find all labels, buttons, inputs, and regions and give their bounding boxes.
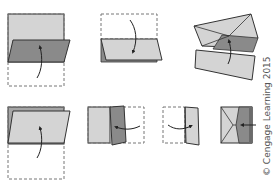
copyright-notice: © Cengage Learning 2015 xyxy=(262,56,272,176)
step-3-envelope xyxy=(194,14,258,80)
folding-diagram xyxy=(0,0,277,190)
step-2-fold-down xyxy=(101,14,162,62)
step-7-finished xyxy=(221,107,256,143)
step-5-fold-right xyxy=(88,106,144,145)
step-1-fold-up xyxy=(8,14,70,86)
step-4-fold-up xyxy=(8,107,70,179)
step-6-fold-left xyxy=(163,107,199,145)
